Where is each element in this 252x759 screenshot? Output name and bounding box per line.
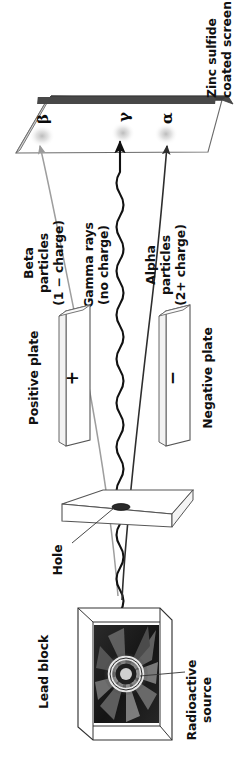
beta-label-line1: Beta xyxy=(21,247,36,279)
collimator-hole xyxy=(112,504,130,511)
negative-plate-sign: − xyxy=(162,371,182,385)
radiation-deflection-diagram: β γ α Zinc sulfide coated screen Beta pa… xyxy=(0,0,252,759)
gamma-label: Gamma rays (no charge) xyxy=(81,222,111,308)
beta-symbol: β xyxy=(34,114,52,124)
gamma-symbol: γ xyxy=(115,112,133,122)
negative-plate: − xyxy=(159,305,190,446)
negative-plate-label: Negative plate xyxy=(200,327,215,428)
lead-block-label: Lead block xyxy=(36,634,51,709)
positive-plate: + xyxy=(59,305,90,446)
beta-label: Beta particles (1 − charge) xyxy=(21,220,66,306)
gamma-impact-glow xyxy=(111,122,135,144)
positive-plate-sign: + xyxy=(62,371,82,385)
alpha-label-line2: particles xyxy=(158,235,173,295)
gamma-label-line1: Gamma rays xyxy=(81,222,96,308)
beta-impact-glow xyxy=(29,125,55,147)
alpha-label-line1: Alpha xyxy=(143,245,158,284)
radioactive-source-label-line2: source xyxy=(199,677,214,723)
positive-plate-label: Positive plate xyxy=(26,331,41,426)
alpha-label: Alpha particles (2+ charge) xyxy=(143,224,188,305)
screen-label-line2: coated screen xyxy=(219,1,234,98)
collimator-plate xyxy=(62,490,193,527)
radioactive-source-label-line1: Radioactive xyxy=(184,660,199,741)
screen-label-line1: Zinc sulfide xyxy=(204,18,219,98)
screen-label: Zinc sulfide coated screen xyxy=(204,1,234,98)
beta-label-line2: particles xyxy=(36,233,51,293)
gamma-label-line2: (no charge) xyxy=(96,225,111,305)
diagram-canvas: β γ α Zinc sulfide coated screen Beta pa… xyxy=(0,0,252,759)
alpha-impact-glow xyxy=(154,123,178,145)
alpha-label-line3: (2+ charge) xyxy=(173,224,188,305)
source-core xyxy=(120,668,132,680)
beta-label-line3: (1 − charge) xyxy=(51,220,66,306)
screen-coating-shade xyxy=(37,97,216,104)
hole-label: Hole xyxy=(50,544,65,575)
alpha-symbol: α xyxy=(158,112,176,124)
